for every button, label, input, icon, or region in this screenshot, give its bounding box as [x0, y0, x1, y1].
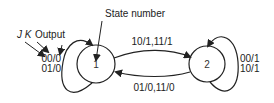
state-1-label: 1 — [93, 59, 99, 70]
state-number-pointer — [96, 21, 102, 60]
self-loop-2-label-2: 10/1 — [240, 63, 260, 74]
state-number-annotation: State number — [105, 8, 166, 19]
state-2-label: 2 — [204, 59, 210, 70]
self-loop-2-arrow — [208, 37, 238, 91]
state-2: 2 — [189, 46, 225, 82]
transition-2-to-1-arrow — [116, 72, 190, 77]
state-diagram: 1 2 State number J K Output 00/0 01/0 10… — [0, 0, 274, 103]
transition-2-to-1-label: 01/0,11/0 — [134, 82, 175, 93]
jk-annotation: J K — [16, 29, 33, 40]
self-loop-1-label-2: 01/0 — [42, 63, 62, 74]
transition-1-to-2-arrow — [114, 50, 190, 58]
state-1: 1 — [77, 45, 115, 83]
output-annotation: Output — [35, 29, 65, 40]
transition-1-to-2-label: 10/1,11/1 — [132, 36, 173, 47]
k-pointer — [37, 42, 48, 52]
